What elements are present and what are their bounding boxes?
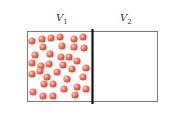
gas-particle bbox=[28, 37, 35, 44]
gas-particle bbox=[28, 70, 35, 77]
gas-particle bbox=[38, 35, 45, 42]
gas-particle bbox=[29, 88, 36, 95]
gas-particle bbox=[59, 61, 66, 68]
gas-particle bbox=[79, 73, 86, 80]
gas-particle bbox=[39, 92, 46, 99]
gas-particle bbox=[49, 80, 56, 87]
gas-particle bbox=[28, 59, 35, 66]
gas-particle bbox=[53, 68, 60, 75]
gas-particle bbox=[39, 43, 46, 50]
gas-particle bbox=[40, 80, 47, 87]
gas-particle bbox=[56, 33, 63, 40]
gas-particle bbox=[31, 51, 38, 58]
gas-particle bbox=[58, 42, 65, 49]
gas-particle bbox=[63, 75, 70, 82]
gas-particle bbox=[70, 35, 77, 42]
gas-particle bbox=[80, 44, 87, 51]
gas-particle bbox=[73, 83, 80, 90]
gas-particle bbox=[79, 33, 86, 40]
gas-particle bbox=[60, 85, 67, 92]
gas-particle bbox=[70, 43, 77, 50]
gas-particle bbox=[65, 53, 72, 60]
gas-particle bbox=[46, 50, 53, 57]
gas-particle bbox=[82, 64, 89, 71]
gas-particle bbox=[49, 92, 56, 99]
gas-particle bbox=[36, 67, 43, 74]
gas-particle bbox=[45, 60, 52, 67]
gas-expansion-diagram bbox=[0, 0, 177, 114]
gas-particle bbox=[82, 85, 89, 92]
gas-particle bbox=[57, 53, 64, 60]
gas-particle bbox=[47, 34, 54, 41]
gas-particle bbox=[71, 91, 78, 98]
gas-particle bbox=[73, 57, 80, 64]
gas-particle bbox=[68, 65, 75, 72]
gas-particle bbox=[43, 73, 50, 80]
